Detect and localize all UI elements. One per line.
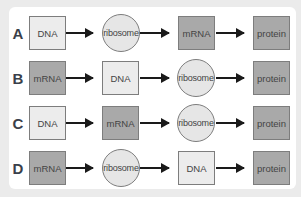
mrna-node: mRNA xyxy=(29,151,66,185)
protein-node: protein xyxy=(253,151,290,185)
arrow-right-icon xyxy=(140,32,169,34)
option-letter: D xyxy=(12,160,24,177)
option-row-d: DmRNAribosomeDNAprotein xyxy=(0,151,301,187)
arrow-right-icon xyxy=(216,122,244,124)
arrow-right-icon xyxy=(140,122,169,124)
protein-node: protein xyxy=(253,106,290,140)
dna-node: DNA xyxy=(29,16,66,50)
dna-node: DNA xyxy=(102,61,139,95)
arrow-right-icon xyxy=(216,32,244,34)
protein-node: protein xyxy=(253,16,290,50)
dna-node: DNA xyxy=(178,151,215,185)
option-letter: A xyxy=(12,25,24,42)
ribosome-node: ribosome xyxy=(102,14,140,52)
arrow-right-icon xyxy=(216,77,244,79)
arrow-right-icon xyxy=(216,167,244,169)
arrow-right-icon xyxy=(140,167,169,169)
arrow-right-icon xyxy=(66,32,93,34)
ribosome-node: ribosome xyxy=(102,149,140,187)
option-row-a: ADNAribosomemRNAprotein xyxy=(0,16,301,52)
option-row-c: CDNAmRNAribosomeprotein xyxy=(0,106,301,142)
mrna-node: mRNA xyxy=(29,61,66,95)
arrow-right-icon xyxy=(66,77,93,79)
dna-node: DNA xyxy=(29,106,66,140)
option-letter: C xyxy=(12,115,24,132)
arrow-right-icon xyxy=(140,77,169,79)
option-letter: B xyxy=(12,70,24,87)
mrna-node: mRNA xyxy=(178,16,215,50)
arrow-right-icon xyxy=(66,167,93,169)
protein-node: protein xyxy=(253,61,290,95)
mrna-node: mRNA xyxy=(102,106,139,140)
option-row-b: BmRNADNAribosomeprotein xyxy=(0,61,301,97)
arrow-right-icon xyxy=(66,122,93,124)
ribosome-node: ribosome xyxy=(177,59,215,97)
ribosome-node: ribosome xyxy=(177,104,215,142)
